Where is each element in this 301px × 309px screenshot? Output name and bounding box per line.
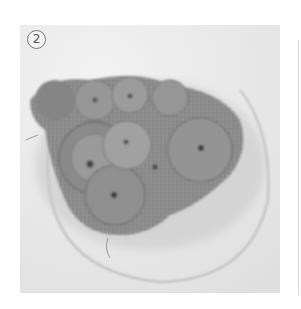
crochet-illustration [0,0,301,309]
step-number-label: 2 [27,30,46,49]
